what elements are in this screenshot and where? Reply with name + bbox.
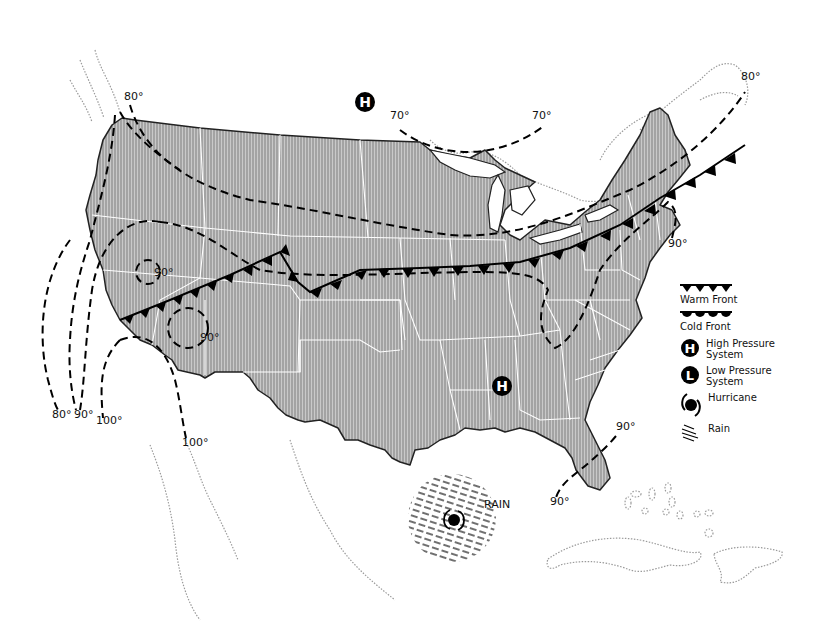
legend-label: Low Pressure [706,365,772,376]
legend-label: Cold Front [680,321,731,332]
legend-hurricane: Hurricane [680,392,820,418]
legend-label: Rain [708,423,730,434]
low-pressure-icon: L [680,365,700,385]
legend-high-pressure: H High Pressure System [680,338,820,360]
isotherm-label: 90° [154,266,174,279]
svg-text:H: H [359,94,371,110]
svg-text:H: H [685,341,696,356]
svg-text:H: H [496,378,508,394]
legend-label: System [706,349,775,360]
high-pressure-icon-north: H [355,92,375,112]
legend-label: High Pressure [706,338,775,349]
isotherm-label: 70° [532,109,552,122]
legend-low-pressure: L Low Pressure System [680,365,820,387]
hurricane-icon [680,392,702,418]
warm-front-icon [680,284,740,294]
map-legend: Warm Front Cold Front H High Pressure Sy… [680,284,820,448]
legend-label: Warm Front [680,294,738,305]
svg-text:L: L [686,368,694,383]
isotherm-label: 90° [74,408,94,421]
cold-front-icon [680,311,740,321]
isotherm-label: 80° [741,70,761,83]
isotherm-label: 80° [52,408,72,421]
isotherm-label: 90° [668,237,688,250]
legend-label: Hurricane [708,392,757,403]
isotherm-label: 100° [182,436,209,449]
isotherm-label: 70° [390,109,410,122]
isotherm-label: 100° [96,414,123,427]
isotherm-label: 90° [616,420,636,433]
legend-cold-front: Cold Front [680,311,820,332]
rain-label: RAIN [484,498,510,511]
legend-rain: Rain [680,423,820,443]
isotherm-label: 90° [200,331,220,344]
isotherm-label: 90° [550,495,570,508]
rain-icon [680,423,702,443]
legend-warm-front: Warm Front [680,284,820,305]
high-pressure-icon: H [680,338,700,358]
legend-label: System [706,376,772,387]
high-pressure-icon-south: H [492,376,512,396]
isotherm-label: 80° [124,90,144,103]
